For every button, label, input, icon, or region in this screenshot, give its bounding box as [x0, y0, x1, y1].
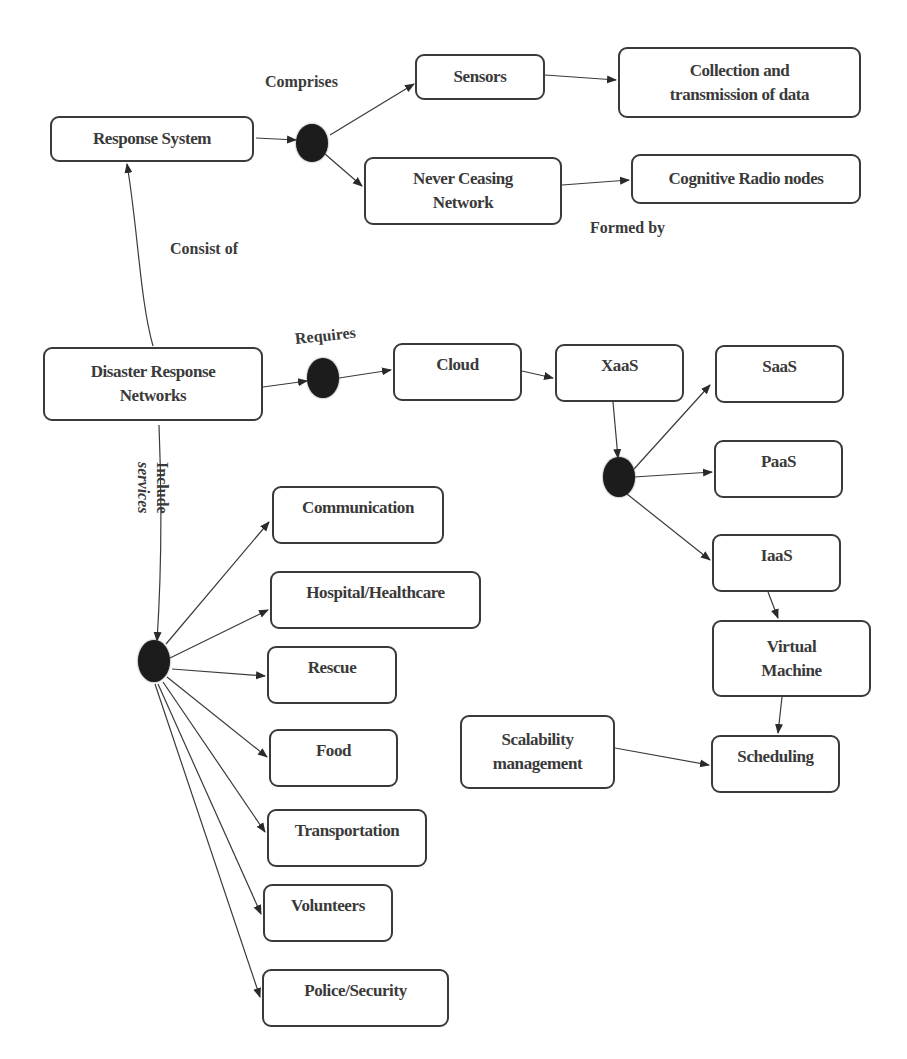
node-never-ceasing-network: Never Ceasing Network	[364, 157, 562, 225]
node-scheduling: Scheduling	[711, 735, 840, 793]
edge-drn-to-response-system	[127, 164, 153, 346]
edge-to-rescue	[172, 669, 265, 676]
node-hospital-healthcare: Hospital/Healthcare	[270, 571, 481, 629]
node-label-line2: transmission of data	[670, 83, 809, 107]
node-iaas: IaaS	[712, 534, 841, 592]
edge-iaas-to-vm	[768, 592, 778, 618]
edge-vm-to-scheduling	[778, 697, 782, 733]
node-saas: SaaS	[715, 345, 844, 403]
edge-label-include-services: Include services	[134, 462, 172, 514]
node-label: Transportation	[295, 819, 400, 843]
node-transportation: Transportation	[267, 809, 427, 867]
edge-drn-to-include-junction	[157, 425, 161, 641]
node-label: IaaS	[761, 544, 792, 568]
node-label: Rescue	[308, 656, 357, 680]
edge-to-communication	[166, 522, 269, 644]
node-label: Hospital/Healthcare	[306, 581, 444, 605]
edge-junction-to-never-ceasing	[325, 154, 362, 186]
node-cognitive-radio: Cognitive Radio nodes	[631, 154, 861, 204]
node-label-line2: Machine	[761, 659, 821, 683]
edge-label-line1: Include	[153, 462, 172, 514]
node-volunteers: Volunteers	[263, 884, 393, 942]
edge-to-police	[155, 684, 260, 997]
edge-response-to-junction	[256, 138, 296, 140]
edge-never-ceasing-to-cognitive	[562, 180, 629, 185]
node-label: Scheduling	[737, 745, 813, 769]
node-label-line1: Scalability	[501, 728, 573, 752]
node-scalability-management: Scalability management	[460, 715, 615, 789]
node-sensors: Sensors	[415, 54, 545, 100]
node-cloud: Cloud	[393, 343, 522, 401]
node-response-system: Response System	[50, 116, 254, 162]
node-label-line1: Never Ceasing	[413, 167, 513, 191]
edge-sensors-to-collection	[545, 75, 616, 80]
node-label: Communication	[302, 496, 414, 520]
edge-label-comprises: Comprises	[265, 73, 338, 91]
edge-junction-to-cloud	[339, 370, 391, 378]
edge-junction-to-iaas	[627, 494, 710, 560]
node-label: Food	[316, 739, 351, 763]
node-food: Food	[269, 729, 398, 787]
include-junction-dot	[138, 640, 170, 682]
edge-junction-to-paas	[634, 472, 712, 477]
node-label: PaaS	[761, 450, 796, 474]
node-communication: Communication	[272, 486, 444, 544]
node-label: Volunteers	[291, 894, 365, 918]
edge-cloud-to-xaas	[522, 371, 553, 378]
node-label-line2: Networks	[120, 384, 187, 408]
diagram-canvas: Response System Comprises Sensors Collec…	[0, 0, 907, 1059]
node-virtual-machine: Virtual Machine	[712, 620, 871, 697]
node-label: Police/Security	[304, 979, 407, 1003]
edge-drn-to-requires-junction	[263, 381, 307, 387]
node-paas: PaaS	[714, 440, 843, 498]
node-collection-transmission: Collection and transmission of data	[618, 47, 861, 118]
node-label: XaaS	[601, 354, 638, 378]
node-label: Sensors	[454, 65, 507, 89]
node-label-line1: Disaster Response	[91, 360, 216, 384]
edge-to-volunteers	[158, 684, 261, 914]
node-label-line2: Network	[433, 191, 493, 215]
node-police-security: Police/Security	[262, 969, 449, 1027]
comprises-junction-dot	[296, 124, 328, 162]
edge-junction-to-sensors	[330, 84, 414, 135]
requires-junction-dot	[307, 358, 339, 398]
node-label: Response System	[93, 127, 211, 151]
edge-label-formed-by: Formed by	[590, 219, 665, 237]
node-rescue: Rescue	[267, 646, 397, 704]
edge-to-hospital	[170, 610, 268, 658]
node-xaas: XaaS	[555, 344, 684, 402]
edge-label-line2: services	[134, 462, 153, 514]
node-label: SaaS	[762, 355, 796, 379]
edge-xaas-to-junction	[613, 402, 618, 458]
edge-label-consist-of: Consist of	[170, 240, 238, 258]
node-label-line1: Collection and	[690, 59, 790, 83]
node-disaster-response-networks: Disaster Response Networks	[43, 347, 263, 421]
node-label: Cognitive Radio nodes	[668, 167, 823, 191]
node-label-line1: Virtual	[767, 635, 816, 659]
edge-to-food	[167, 677, 267, 757]
node-label: Cloud	[436, 353, 478, 377]
xaas-junction-dot	[603, 457, 635, 497]
edge-scalability-to-scheduling	[615, 748, 709, 765]
node-label-line2: management	[493, 752, 582, 776]
